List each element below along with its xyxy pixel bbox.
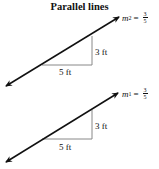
parallel-lines-graphic <box>0 0 159 169</box>
bottom-rise-label: 3 ft <box>95 121 107 131</box>
slope-subscript: 2 <box>129 15 132 21</box>
bottom-run-label: 5 ft <box>59 142 71 152</box>
bottom-slope-label: m1 = 3 5 <box>122 87 148 100</box>
slope-subscript: 1 <box>129 91 132 97</box>
equals-sign: = <box>134 13 139 23</box>
slope-fraction: 3 5 <box>143 87 148 100</box>
top-rise-label: 3 ft <box>95 47 107 57</box>
denominator: 5 <box>144 94 147 100</box>
slope-fraction: 3 5 <box>143 11 148 24</box>
equals-sign: = <box>134 89 139 99</box>
top-slope-triangle <box>42 36 92 65</box>
top-run-label: 5 ft <box>59 67 71 77</box>
top-slope-label: m2 = 3 5 <box>122 11 148 24</box>
denominator: 5 <box>144 18 147 24</box>
